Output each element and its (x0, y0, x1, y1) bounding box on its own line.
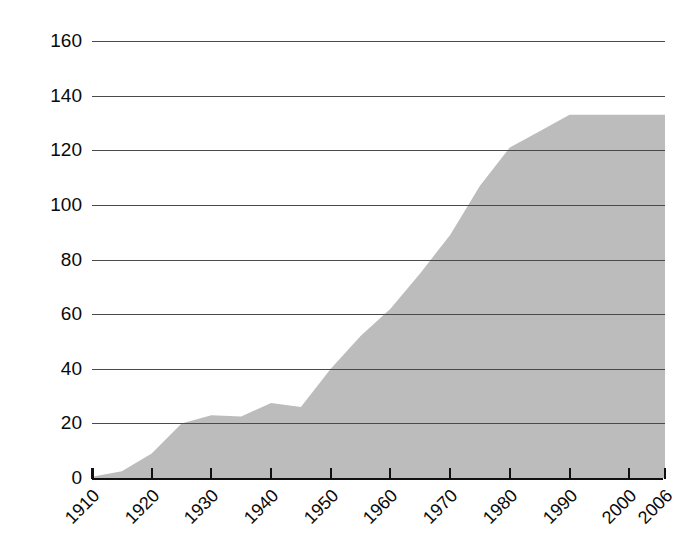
x-axis-tick-label: 1940 (241, 486, 282, 527)
x-axis-tick-label: 1980 (480, 486, 521, 527)
y-axis-tick-label: 60 (38, 304, 82, 323)
x-axis-tick-label: 1990 (539, 486, 580, 527)
y-axis-tick-label: 100 (38, 195, 82, 214)
y-axis-tick-label: 0 (38, 468, 82, 487)
x-axis-tick (91, 468, 93, 479)
gridline (92, 423, 665, 424)
x-axis-tick-label: 1950 (300, 486, 341, 527)
x-axis-tick-label: 1970 (420, 486, 461, 527)
gridline (92, 314, 665, 315)
x-axis-tick (151, 468, 153, 479)
x-axis-tick-label: 2006 (635, 486, 676, 527)
x-axis-tick (330, 468, 332, 479)
y-axis-tick-labels: 020406080100120140160 (30, 0, 82, 542)
x-axis-tick (270, 468, 272, 479)
x-axis-tick (664, 468, 666, 479)
gridline (92, 369, 665, 370)
x-axis-line (92, 478, 663, 480)
x-axis-tick (628, 468, 630, 479)
y-axis-tick-label: 140 (38, 86, 82, 105)
x-axis-tick-label: 2000 (599, 486, 640, 527)
y-axis-tick-label: 40 (38, 359, 82, 378)
x-axis-tick-label: 1930 (181, 486, 222, 527)
gridline (92, 260, 665, 261)
x-axis-tick-label: 1960 (360, 486, 401, 527)
gridline (92, 96, 665, 97)
y-axis-tick-label: 80 (38, 250, 82, 269)
y-axis-tick-label: 160 (38, 31, 82, 50)
x-axis-tick (389, 468, 391, 479)
y-axis-tick-label: 20 (38, 413, 82, 432)
x-axis-tick (210, 468, 212, 479)
x-axis-tick (569, 468, 571, 479)
x-axis-tick (509, 468, 511, 479)
gridline (92, 205, 665, 206)
plot-area (92, 41, 665, 478)
x-axis-tick-label: 1920 (121, 486, 162, 527)
chart-container: Millions of cars 020406080100120140160 1… (0, 0, 696, 542)
y-axis-tick-label: 120 (38, 140, 82, 159)
x-axis-tick (449, 468, 451, 479)
gridline (92, 150, 665, 151)
gridline (92, 41, 665, 42)
